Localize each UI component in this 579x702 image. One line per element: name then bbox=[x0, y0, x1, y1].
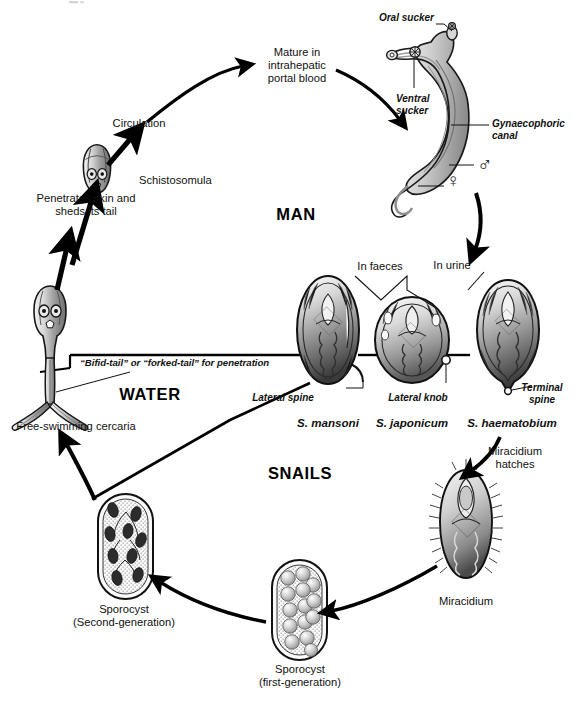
species-name-s-haematobium: S. haematobium bbox=[467, 416, 557, 430]
stage-label-miracidium: Miracidium bbox=[439, 595, 493, 608]
stage-label-free-swimming-cercaria: Free-swimming cercaria bbox=[16, 420, 135, 433]
egg-route-in-faeces: In faeces bbox=[357, 260, 402, 273]
life-cycle-diagram: MAN WATER SNAILS Schistosomula Circulati… bbox=[0, 0, 579, 702]
egg-s-haematobium bbox=[477, 280, 539, 394]
worm-symbol-male: ♂ bbox=[477, 152, 493, 177]
stage-label-penetrates-skin: Penetrates skin and sheds its tail bbox=[37, 192, 136, 218]
species-name-s-mansoni: S. mansoni bbox=[297, 416, 359, 430]
cercaria-note-bifid-tail: “Bifid-tail” or “forked-tail” for penetr… bbox=[80, 357, 269, 368]
arrow-worms-to-eggs bbox=[475, 193, 481, 250]
egg-feature-terminal-spine: Terminal spine bbox=[521, 382, 562, 406]
stage-label-sporocyst-second-generation: Sporocyst (Second-generation) bbox=[73, 603, 175, 629]
egg-feature-lateral-knob: Lateral knob bbox=[388, 392, 447, 404]
worm-label-ventral-sucker: Ventral sucker bbox=[396, 93, 430, 117]
arrow-schistosomula-to-circulation bbox=[108, 137, 132, 165]
arrow-circulation-to-mature bbox=[147, 66, 243, 122]
sporocyst-first-generation-organism bbox=[272, 560, 327, 660]
egg-s-japonicum bbox=[375, 297, 450, 383]
egg-route-in-urine: In urine bbox=[433, 259, 470, 272]
arrow-cercaria-to-penetrates bbox=[57, 247, 67, 290]
zone-label-water: WATER bbox=[119, 385, 180, 404]
miracidium-organism bbox=[429, 459, 503, 578]
schistosomula-organism bbox=[83, 145, 110, 193]
arrow-miracidium-to-sporocyst1 bbox=[331, 566, 437, 611]
stage-label-mature-portal-blood: Mature in intrahepatic portal blood bbox=[268, 46, 326, 86]
stage-label-sporocyst-first-generation: Sporocyst (first-generation) bbox=[259, 663, 341, 689]
stage-label-circulation: Circulation bbox=[113, 117, 166, 130]
adult-worm-pair bbox=[387, 23, 489, 217]
worm-symbol-female: ♀ bbox=[446, 170, 460, 192]
arrow-sporocyst2-to-cercaria bbox=[66, 443, 95, 500]
sporocyst-second-generation-organism bbox=[98, 494, 153, 599]
stage-label-miracidium-hatches: Miracidium hatches bbox=[488, 445, 542, 471]
arrow-mature-to-worms bbox=[336, 70, 400, 120]
egg-s-mansoni bbox=[297, 276, 363, 388]
worm-label-gynaecophoric-canal: Gynaecophoric canal bbox=[492, 118, 565, 142]
egg-feature-lateral-spine: Lateral spine bbox=[252, 392, 314, 404]
scan-artifact bbox=[69, 1, 84, 3]
worm-label-oral-sucker: Oral sucker bbox=[379, 12, 434, 24]
stage-label-schistosomula: Schistosomula bbox=[139, 174, 212, 187]
zone-label-snails: SNAILS bbox=[268, 464, 332, 483]
species-name-s-japonicum: S. japonicum bbox=[376, 416, 448, 430]
arrow-sporocyst1-to-sporocyst2 bbox=[160, 582, 266, 622]
zone-label-man: MAN bbox=[276, 205, 315, 224]
